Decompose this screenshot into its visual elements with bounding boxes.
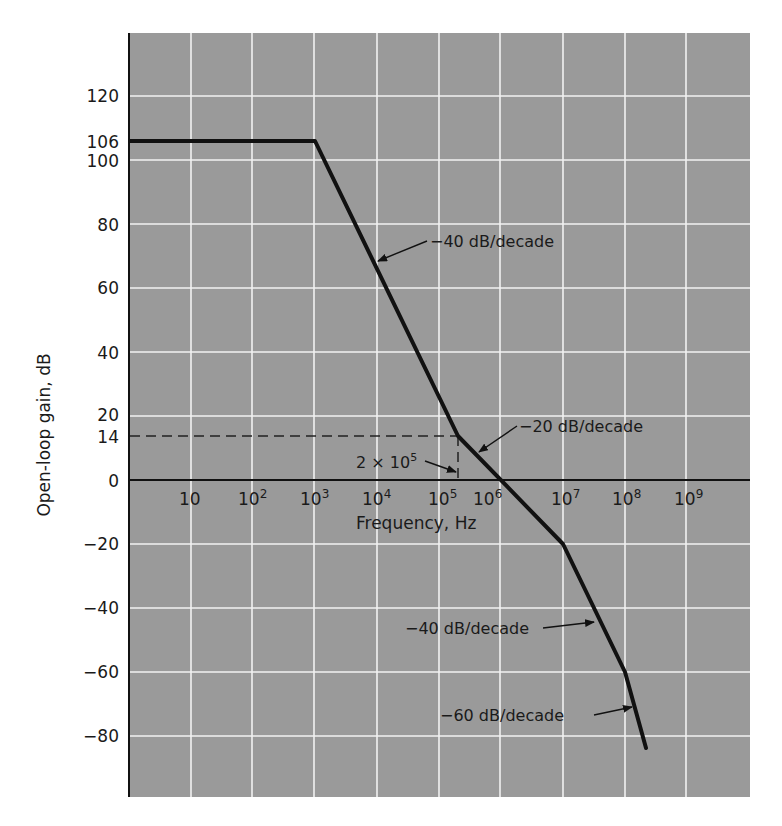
y-tick-labels: 120 106 100 80 60 40 20 14 0 −20 −40 −60… — [83, 86, 119, 746]
y-tick-minus80: −80 — [83, 726, 119, 746]
y-tick-20: 20 — [97, 405, 119, 425]
annotation-break-frequency: 2 × 105 — [356, 451, 417, 472]
y-tick-0: 0 — [108, 471, 119, 491]
annotation-slope-minus40-second: −40 dB/decade — [405, 619, 529, 638]
y-tick-minus60: −60 — [83, 662, 119, 682]
y-tick-120: 120 — [87, 86, 119, 106]
y-tick-14: 14 — [97, 427, 119, 447]
y-tick-80: 80 — [97, 215, 119, 235]
x-tick-10: 10 — [179, 489, 201, 509]
bode-plot: 120 106 100 80 60 40 20 14 0 −20 −40 −60… — [0, 0, 782, 826]
y-tick-minus20: −20 — [83, 534, 119, 554]
y-tick-minus40: −40 — [83, 598, 119, 618]
y-tick-40: 40 — [97, 343, 119, 363]
x-axis-title: Frequency, Hz — [356, 513, 476, 533]
y-tick-60: 60 — [97, 278, 119, 298]
y-axis-title: Open-loop gain, dB — [34, 353, 54, 516]
annotation-slope-minus20: −20 dB/decade — [519, 417, 643, 436]
x-tick-labels: 10 102 103 104 105 106 107 108 109 — [179, 487, 703, 509]
y-tick-100: 100 — [87, 151, 119, 171]
annotation-slope-minus40-first: −40 dB/decade — [430, 232, 554, 251]
plot-area — [130, 33, 750, 797]
y-tick-106: 106 — [87, 132, 119, 152]
annotation-slope-minus60: −60 dB/decade — [440, 706, 564, 725]
